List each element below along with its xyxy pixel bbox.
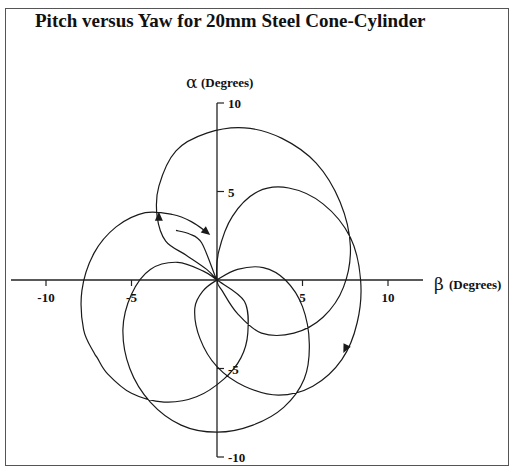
y-tick-label: 5 [228,185,235,200]
x-axis-symbol: β [434,274,444,294]
x-axis-title: (Degrees) [449,277,501,292]
x-tick-label: -10 [37,290,54,305]
direction-arrow-icon [201,226,210,235]
y-axis-title: (Degrees) [201,75,253,90]
y-tick-label: -10 [228,450,245,465]
x-tick-label: 10 [382,290,395,305]
y-tick-label: 10 [228,96,241,111]
y-axis-symbol: α [186,72,198,92]
chart-svg: -10-5510105-5-10 α (Degrees) β (Degrees) [0,0,514,470]
